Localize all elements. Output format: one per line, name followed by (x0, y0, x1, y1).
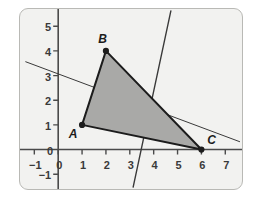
vertex-label-C: C (207, 134, 216, 146)
x-tick-label: 0 (56, 160, 62, 171)
coordinate-plane-figure: −101234567−1012345ABC (0, 0, 258, 206)
vertex-dot-A (79, 122, 85, 128)
y-tick-label: 5 (45, 22, 51, 33)
x-tick-label: 1 (80, 160, 86, 171)
triangle-ABC (82, 51, 201, 150)
plot-panel: −101234567−1012345ABC (19, 8, 243, 190)
y-tick-label: 0 (47, 145, 53, 156)
y-tick-label: 1 (45, 120, 51, 131)
x-tick-label: 3 (128, 160, 134, 171)
x-tick-label: 2 (104, 160, 110, 171)
vertex-label-A: A (69, 128, 78, 140)
x-tick-label: 7 (223, 160, 229, 171)
y-tick-label: 3 (45, 71, 51, 82)
y-tick-label: −1 (39, 170, 52, 181)
vertex-dot-B (103, 48, 109, 54)
polygons-group (82, 51, 201, 150)
vertex-dot-C (198, 146, 204, 152)
vertex-label-B: B (98, 33, 107, 45)
y-tick-label: 2 (45, 96, 51, 107)
x-tick-label: 4 (152, 160, 158, 171)
y-tick-label: 4 (45, 46, 51, 57)
x-tick-label: 6 (199, 160, 205, 171)
x-tick-label: 5 (175, 160, 181, 171)
